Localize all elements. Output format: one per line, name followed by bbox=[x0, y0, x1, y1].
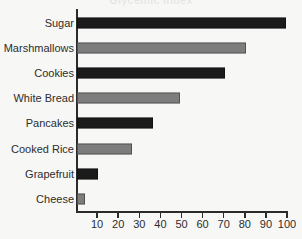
x-tick-label: 30 bbox=[133, 219, 145, 230]
bar-row: Cookies bbox=[0, 60, 302, 85]
x-tick-label: 10 bbox=[91, 219, 103, 230]
bar-row: Cooked Rice bbox=[0, 136, 302, 161]
bar bbox=[77, 143, 132, 154]
category-label: White Bread bbox=[13, 93, 74, 104]
plot-area: SugarMarshmallowsCookiesWhite BreadPanca… bbox=[0, 0, 302, 239]
category-label: Grapefruit bbox=[25, 168, 74, 179]
bar bbox=[77, 118, 153, 129]
category-label: Cookies bbox=[34, 67, 74, 78]
x-tick-label: 70 bbox=[218, 219, 230, 230]
bar-row: Sugar bbox=[0, 10, 302, 35]
x-tick-label: 80 bbox=[239, 219, 251, 230]
bar-row: Pancakes bbox=[0, 111, 302, 136]
bar-chart: Glycemic Index SugarMarshmallowsCookiesW… bbox=[0, 0, 302, 239]
bar-row: Cheese bbox=[0, 186, 302, 211]
bar bbox=[77, 42, 246, 53]
category-label: Cheese bbox=[36, 193, 74, 204]
category-label: Cooked Rice bbox=[11, 143, 74, 154]
bar bbox=[77, 193, 85, 204]
x-tick-label: 90 bbox=[260, 219, 272, 230]
bar bbox=[77, 168, 98, 179]
category-label: Marshmallows bbox=[4, 42, 74, 53]
bar-row: Marshmallows bbox=[0, 35, 302, 60]
bar-row: Grapefruit bbox=[0, 161, 302, 186]
category-label: Pancakes bbox=[26, 118, 74, 129]
bar-row: White Bread bbox=[0, 86, 302, 111]
x-tick-label: 40 bbox=[154, 219, 166, 230]
x-tick-label: 50 bbox=[175, 219, 187, 230]
category-label: Sugar bbox=[45, 17, 74, 28]
bar bbox=[77, 93, 180, 104]
bar bbox=[77, 17, 286, 28]
x-tick-label: 20 bbox=[112, 219, 124, 230]
x-tick-label: 60 bbox=[196, 219, 208, 230]
x-tick-label: 100 bbox=[278, 219, 296, 230]
bar bbox=[77, 67, 225, 78]
